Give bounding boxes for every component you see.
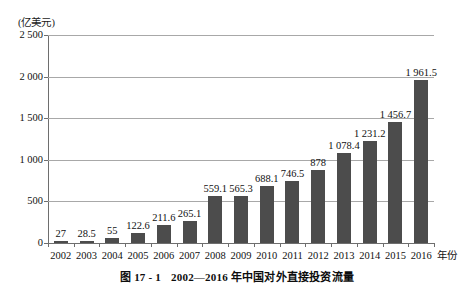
bar-value-label: 1 231.2 (354, 128, 386, 140)
bar-slot: 211.6 (151, 35, 177, 243)
bar-slot: 27 (48, 35, 74, 243)
x-axis-tick-mark (254, 243, 255, 247)
bar-value-label: 265.1 (178, 208, 202, 220)
bar-slot: 1 961.5 (408, 35, 434, 243)
bar-value-label: 55 (107, 225, 118, 237)
bar-value-label: 565.3 (229, 183, 253, 195)
bar-slot: 559.1 (202, 35, 228, 243)
x-axis-tick-mark (331, 243, 332, 247)
x-axis-tick-mark (151, 243, 152, 247)
bar[interactable] (157, 225, 171, 243)
bar-slot: 878 (305, 35, 331, 243)
x-axis-tick-mark (177, 243, 178, 247)
figure-bar-chart: (亿美元) 05001 0001 5002 0002 500 2728.5551… (0, 0, 474, 291)
bar[interactable] (337, 153, 351, 243)
y-axis-tick-label: 2 000 (19, 70, 43, 83)
bar-value-label: 211.6 (152, 212, 175, 224)
bar[interactable] (131, 233, 145, 243)
bar[interactable] (208, 196, 222, 243)
bar[interactable] (311, 170, 325, 243)
bar-slot: 55 (99, 35, 125, 243)
x-axis-tick-mark (383, 243, 384, 247)
bar[interactable] (285, 181, 299, 243)
bar-slot: 28.5 (74, 35, 100, 243)
x-axis-title: 年份 (437, 249, 457, 262)
figure-caption: 图 17 - 12002—2016 年中国对外直接投资流量 (0, 268, 474, 284)
bar-value-label: 27 (56, 228, 67, 240)
y-axis-tick-label: 0 (38, 236, 43, 249)
bar-value-label: 688.1 (255, 173, 279, 185)
bar[interactable] (80, 241, 94, 243)
figure-caption-text: 2002—2016 年中国对外直接投资流量 (171, 271, 354, 283)
x-axis-tick-mark (408, 243, 409, 247)
bar-slot: 746.5 (280, 35, 306, 243)
figure-caption-number: 图 17 - 1 (120, 271, 161, 283)
bar[interactable] (388, 122, 402, 243)
bar-value-label: 746.5 (281, 168, 305, 180)
x-axis-tick-mark (228, 243, 229, 247)
y-axis-tick-label: 2 500 (19, 28, 43, 41)
bar-value-label: 1 456.7 (380, 109, 412, 121)
plot-area: 05001 0001 5002 0002 500 2728.555122.621… (48, 35, 434, 243)
bar-value-label: 1 961.5 (405, 67, 437, 79)
bar[interactable] (260, 186, 274, 243)
bar[interactable] (183, 221, 197, 243)
x-axis-tick-mark (280, 243, 281, 247)
y-axis-tick-label: 1 500 (19, 111, 43, 124)
bar-slot: 265.1 (177, 35, 203, 243)
bar-slot: 565.3 (228, 35, 254, 243)
x-axis-tick-mark (305, 243, 306, 247)
x-axis-line (48, 243, 434, 244)
bar[interactable] (234, 196, 248, 243)
bar[interactable] (54, 241, 68, 243)
x-axis-tick-mark (48, 243, 49, 247)
x-axis-tick-mark (202, 243, 203, 247)
bar-slot: 688.1 (254, 35, 280, 243)
bar-value-label: 878 (310, 157, 326, 169)
bar-value-label: 28.5 (77, 228, 95, 240)
x-axis-tick-label: 2016 (401, 249, 441, 262)
x-axis-tick-mark (74, 243, 75, 247)
x-axis-tick-mark (99, 243, 100, 247)
bar-slot: 1 231.2 (357, 35, 383, 243)
x-axis-tick-mark (434, 243, 435, 247)
y-axis-tick-label: 500 (27, 194, 43, 207)
y-axis-unit-label: (亿美元) (18, 14, 55, 29)
bar-value-label: 122.6 (126, 220, 150, 232)
bar-value-label: 1 078.4 (328, 140, 360, 152)
bar[interactable] (363, 141, 377, 243)
y-axis-tick-label: 1 000 (19, 153, 43, 166)
x-axis-tick-mark (125, 243, 126, 247)
bar-value-label: 559.1 (203, 183, 227, 195)
bar[interactable] (105, 238, 119, 243)
bar[interactable] (414, 80, 428, 243)
x-axis-tick-mark (357, 243, 358, 247)
bar-slot: 122.6 (125, 35, 151, 243)
